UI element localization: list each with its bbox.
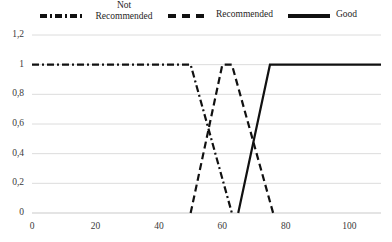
series-line-not-recommended [32, 65, 232, 213]
y-tick-label: 1 [0, 59, 24, 69]
y-tick-label: 1,2 [0, 29, 24, 39]
plot-area: 00,20,40,60,811,2 020406080100 [0, 30, 392, 242]
x-tick-label: 80 [273, 221, 299, 231]
x-tick-label: 0 [19, 221, 45, 231]
legend-solid-line-icon [288, 14, 330, 18]
y-tick-label: 0,8 [0, 88, 24, 98]
legend-item-recommended: Recommended [168, 0, 288, 30]
y-tick-label: 0,2 [0, 177, 24, 187]
x-tick-label: 20 [82, 221, 108, 231]
y-tick-label: 0 [0, 207, 24, 217]
series-line-recommended [191, 65, 273, 213]
legend-dashed-line-icon [168, 14, 210, 18]
series-line-good [238, 65, 381, 213]
y-tick-label: 0,6 [0, 118, 24, 128]
legend-label-recommended: Recommended [216, 9, 296, 20]
legend-item-not-recommended: Not Recommended [40, 0, 170, 30]
series-lines [32, 65, 381, 213]
x-tick-label: 60 [209, 221, 235, 231]
chart-legend: Not Recommended Recommended Good [0, 0, 392, 32]
legend-item-good: Good [288, 0, 388, 30]
y-tick-label: 0,4 [0, 148, 24, 158]
fuzzy-membership-chart: Not Recommended Recommended Good 00,20,4… [0, 0, 392, 242]
plot-svg [0, 30, 392, 242]
x-tick-label: 40 [146, 221, 172, 231]
x-tick-label: 100 [336, 221, 362, 231]
legend-label-not-recommended: Not Recommended [88, 0, 160, 22]
legend-dashdot-line-icon [40, 14, 82, 18]
legend-label-good: Good [336, 9, 386, 20]
